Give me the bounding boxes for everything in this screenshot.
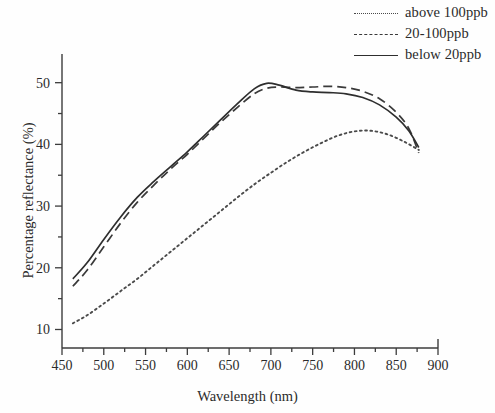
x-axis-tick-label: 900 (428, 358, 449, 373)
x-axis-tick-label: 500 (93, 358, 114, 373)
x-axis-tick-label: 750 (302, 358, 323, 373)
x-axis-tick-label: 550 (135, 358, 156, 373)
x-axis-tick-label: 600 (177, 358, 198, 373)
y-axis-tick-label: 50 (36, 76, 50, 91)
y-axis-title: Percentage reflectance (%) (20, 76, 37, 326)
y-axis-tick-label: 20 (36, 261, 50, 276)
x-axis-tick-label: 450 (52, 358, 73, 373)
legend-label-below-20ppb: below 20ppb (405, 47, 481, 62)
legend-item-above-100ppb: above 100ppb (352, 2, 494, 23)
reflectance-spectra-figure: 1020304050450500550600650700750800850900… (0, 0, 495, 413)
x-axis-tick-label: 800 (344, 358, 365, 373)
legend-item-below-20ppb: below 20ppb (352, 44, 494, 65)
y-axis-tick-label: 40 (36, 137, 50, 152)
y-axis-tick-label: 10 (36, 322, 50, 337)
x-axis-tick-label: 700 (260, 358, 281, 373)
x-axis-title: Wavelength (nm) (0, 388, 495, 405)
legend-label-above-100ppb: above 100ppb (405, 5, 488, 20)
legend-swatch-solid-line (352, 50, 400, 60)
x-axis-tick-label: 650 (219, 358, 240, 373)
chart-legend: above 100ppb 20-100ppb below 20ppb (352, 2, 494, 65)
x-axis-tick-label: 850 (386, 358, 407, 373)
series-line-20-100ppb (73, 86, 419, 286)
legend-swatch-dotted-line (352, 8, 400, 18)
series-line-below-20ppb (73, 83, 419, 279)
series-line-above-100ppb (73, 131, 419, 324)
legend-item-20-100ppb: 20-100ppb (352, 23, 494, 44)
legend-swatch-dashed-line (352, 29, 400, 39)
y-axis-tick-label: 30 (36, 199, 50, 214)
legend-label-20-100ppb: 20-100ppb (405, 26, 469, 41)
